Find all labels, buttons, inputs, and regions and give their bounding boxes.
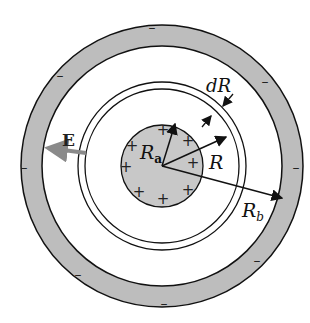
svg-text:–: –	[57, 67, 64, 83]
svg-text:+: +	[187, 154, 200, 172]
svg-text:+: +	[133, 183, 146, 201]
svg-text:+: +	[182, 181, 195, 199]
svg-text:–: –	[21, 159, 28, 175]
shell-thickness-label: dR	[206, 75, 231, 96]
svg-text:–: –	[75, 266, 82, 282]
svg-text:–: –	[254, 252, 261, 268]
svg-text:–: –	[293, 159, 300, 175]
svg-text:+: +	[157, 121, 170, 139]
svg-text:+: +	[126, 137, 139, 155]
svg-text:+: +	[120, 158, 133, 176]
field-label: E	[62, 130, 75, 150]
shell-radius-label: R	[208, 151, 223, 173]
svg-text:+: +	[157, 190, 170, 208]
capacitor-diagram: + + + + + + + + – – – – – – – – E Ra R R…	[0, 0, 310, 323]
svg-text:+: +	[182, 132, 195, 150]
svg-text:–: –	[161, 295, 168, 311]
svg-text:–: –	[262, 73, 269, 89]
svg-text:–: –	[149, 19, 156, 35]
